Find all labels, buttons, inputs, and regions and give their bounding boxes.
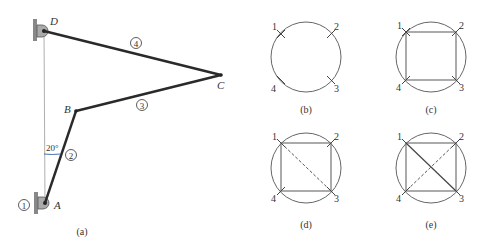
svg-text:1: 1: [397, 20, 402, 31]
link-3-coupler: [76, 75, 221, 111]
svg-text:3: 3: [140, 101, 145, 111]
angle-arc: [44, 154, 61, 155]
svg-text:2: 2: [459, 20, 464, 31]
caption-d: (d): [300, 219, 312, 231]
ground-reference-line: [44, 31, 45, 203]
svg-text:3: 3: [459, 82, 464, 93]
svg-text:3: 3: [459, 193, 464, 204]
link-number-4: 4: [131, 38, 142, 49]
angle-label: 20°: [46, 143, 59, 153]
circle-diagram-b: 1 2 3 4 (b): [271, 21, 341, 116]
svg-text:2: 2: [69, 151, 74, 161]
svg-text:4: 4: [271, 83, 276, 94]
svg-text:2: 2: [459, 131, 464, 142]
svg-text:2: 2: [334, 131, 339, 142]
svg-text:4: 4: [396, 193, 401, 204]
svg-text:1: 1: [397, 131, 402, 142]
caption-b: (b): [300, 104, 312, 116]
joint-c: [219, 73, 223, 77]
svg-text:1: 1: [272, 21, 277, 32]
circle-diagram-c: 1 2 3 4 (c): [396, 20, 466, 116]
link-number-3: 3: [137, 100, 148, 111]
svg-text:2: 2: [334, 21, 339, 32]
circle-diagram-e: 1 2 3 4 (e): [396, 131, 466, 231]
caption-c: (c): [425, 104, 436, 116]
point-c-label: C: [217, 79, 225, 91]
svg-text:4: 4: [134, 39, 139, 49]
point-a-label: A: [53, 199, 61, 211]
point-b-label: B: [64, 103, 71, 115]
svg-text:3: 3: [334, 83, 339, 94]
circle-diagram-d: 1 2 3 4 (d): [271, 131, 341, 231]
link-number-1: 1: [19, 200, 30, 211]
caption-a: (a): [76, 226, 87, 238]
svg-text:4: 4: [396, 82, 401, 93]
ground-support-d: [33, 19, 48, 41]
link-number-2: 2: [66, 150, 77, 161]
svg-text:3: 3: [334, 193, 339, 204]
joint-b: [74, 109, 78, 113]
link-4-rocker: [44, 31, 221, 75]
svg-text:4: 4: [271, 193, 276, 204]
caption-e: (e): [425, 219, 436, 231]
point-d-label: D: [49, 15, 58, 27]
svg-text:1: 1: [22, 201, 27, 211]
svg-text:1: 1: [272, 131, 277, 142]
linkage-figure-a: 20° D C B A 4 3 2 1 (a): [19, 15, 226, 238]
